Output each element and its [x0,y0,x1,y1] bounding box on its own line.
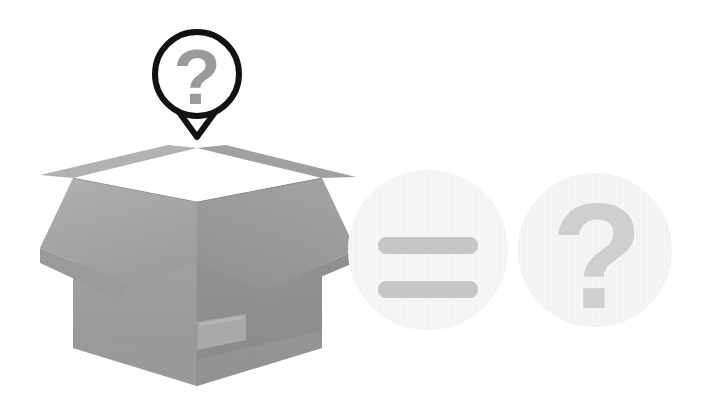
box-flap-back-right [197,145,356,178]
equals-icon-bar-top [378,237,478,254]
open-cardboard-box [40,145,356,386]
mystery-box-artwork: ? ? [0,0,705,414]
equals-sign-circle [348,170,508,330]
equals-icon-bar-bottom [378,281,478,298]
speech-bubble-question-glyph: ? [173,33,221,121]
question-mark-icon-glyph: ? [551,172,643,340]
question-mark-circle: ? [518,172,672,340]
box-flap-back-left [40,145,197,178]
question-speech-bubble: ? [155,32,239,137]
illustration-canvas: Mystery box illustration [0,0,705,414]
